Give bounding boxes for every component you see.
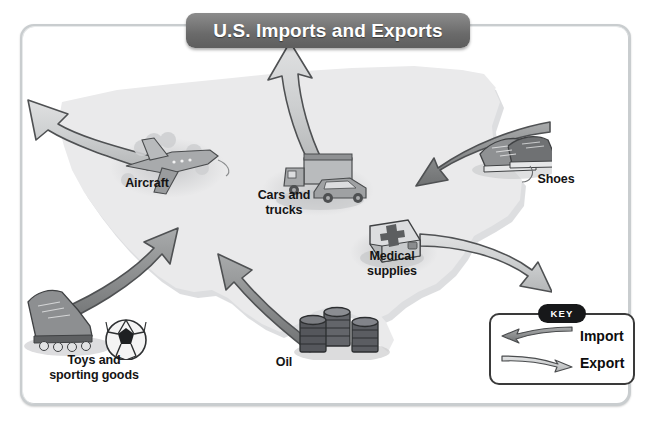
title-banner: U.S. Imports and Exports [186, 13, 470, 48]
label-cars-line2: trucks [244, 203, 324, 218]
label-cars-line1: Cars and [244, 188, 324, 203]
key-import-arrow-icon [500, 325, 574, 347]
label-toys-line2: sporting goods [24, 368, 164, 383]
label-cars-and-trucks: Cars and trucks [244, 188, 324, 218]
key-entry-import: Import [500, 325, 624, 347]
key-import-label: Import [580, 328, 624, 344]
key-box [489, 313, 635, 385]
key-entry-export: Export [500, 352, 624, 374]
label-toys-line1: Toys and [24, 353, 164, 368]
label-toys: Toys and sporting goods [24, 353, 164, 383]
key-heading-label: KEY [551, 308, 574, 319]
infographic-page: U.S. Imports and Exports Aircraft Cars a… [0, 0, 651, 429]
label-shoes: Shoes [524, 172, 588, 187]
label-medical-line2: supplies [352, 264, 432, 279]
key-export-label: Export [580, 355, 624, 371]
page-title: U.S. Imports and Exports [213, 20, 442, 42]
key-heading-pill: KEY [538, 304, 586, 323]
label-medical-supplies: Medical supplies [352, 249, 432, 279]
label-oil-line1: Oil [262, 355, 306, 370]
label-aircraft: Aircraft [112, 176, 182, 191]
label-oil: Oil [262, 355, 306, 370]
label-medical-line1: Medical [352, 249, 432, 264]
label-shoes-line1: Shoes [524, 172, 588, 187]
key-export-arrow-icon [500, 352, 574, 374]
label-aircraft-line1: Aircraft [112, 176, 182, 191]
